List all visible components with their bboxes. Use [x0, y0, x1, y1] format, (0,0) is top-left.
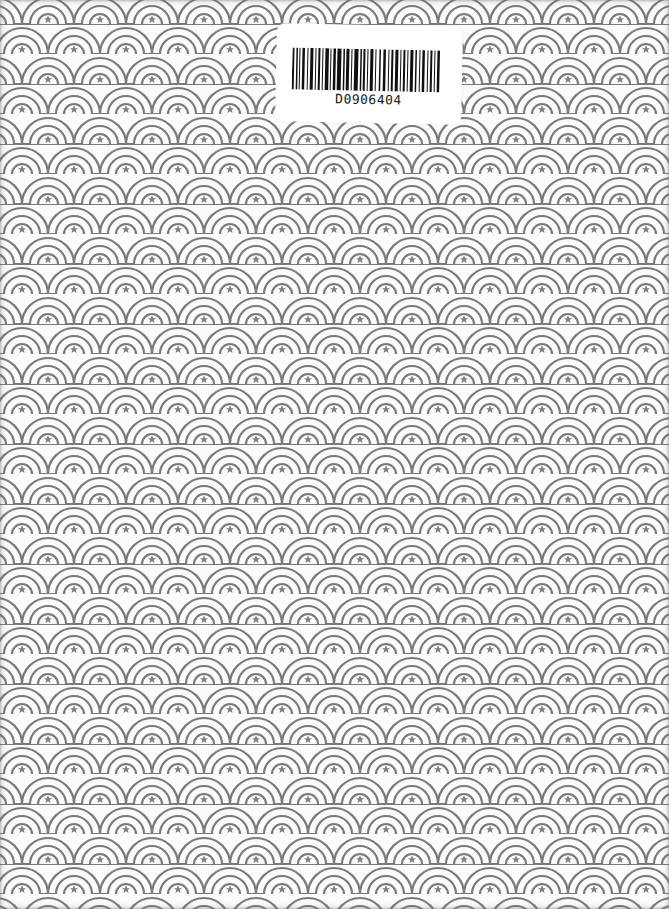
book-back-cover: D0906404: [0, 0, 669, 909]
seigaiha-pattern: [0, 0, 669, 909]
barcode-sticker: D0906404: [275, 23, 463, 125]
barcode-icon: [292, 47, 443, 92]
barcode-number: D0906404: [275, 90, 461, 109]
